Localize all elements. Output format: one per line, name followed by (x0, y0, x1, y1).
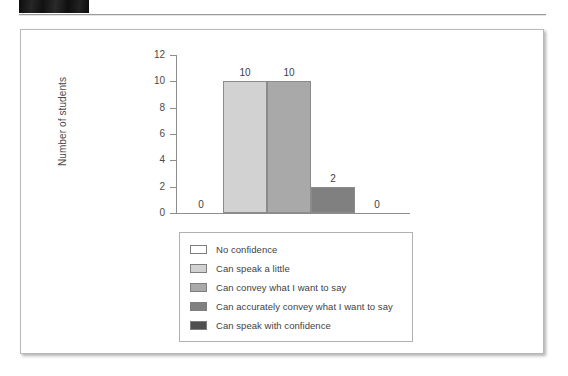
legend-item-3: Can accurately convey what I want to say (190, 297, 412, 316)
y-tick-4 (170, 160, 176, 161)
y-tick-6 (170, 134, 176, 135)
y-tick-0 (170, 213, 176, 214)
legend-item-1: Can speak a little (190, 259, 412, 278)
y-tick-label-0: 0 (131, 207, 165, 218)
bars-layer: 0101020 (177, 55, 410, 213)
legend-swatch-4 (190, 321, 207, 330)
bar-3 (311, 187, 355, 213)
y-tick-label-8: 8 (131, 102, 165, 113)
legend-label-0: No confidence (216, 244, 277, 255)
y-tick-12 (170, 55, 176, 56)
legend-item-4: Can speak with confidence (190, 316, 412, 335)
legend-swatch-3 (190, 302, 207, 311)
legend-swatch-1 (190, 264, 207, 273)
y-tick-label-4: 4 (131, 154, 165, 165)
y-tick-label-6: 6 (131, 128, 165, 139)
legend-swatch-0 (190, 245, 207, 254)
y-tick-label-12: 12 (131, 49, 165, 60)
y-tick-label-2: 2 (131, 181, 165, 192)
legend-swatch-2 (190, 283, 207, 292)
page-header (0, 0, 568, 20)
chart-legend: No confidenceCan speak a littleCan conve… (179, 232, 413, 342)
figure-frame: Number of students 024681012 0101020 No … (20, 29, 544, 354)
bar-value-label-2: 10 (269, 67, 309, 78)
y-tick-8 (170, 108, 176, 109)
y-tick-2 (170, 187, 176, 188)
legend-label-2: Can convey what I want to say (216, 282, 346, 293)
bar-value-label-0: 0 (181, 199, 221, 210)
legend-item-2: Can convey what I want to say (190, 278, 412, 297)
bar-2 (267, 81, 311, 213)
bar-value-label-4: 0 (357, 199, 397, 210)
header-divider (19, 14, 546, 15)
legend-label-3: Can accurately convey what I want to say (216, 301, 393, 312)
y-tick-10 (170, 81, 176, 82)
bar-value-label-3: 2 (313, 173, 353, 184)
bar-value-label-1: 10 (225, 67, 265, 78)
redaction-bar (19, 0, 89, 13)
y-tick-label-10: 10 (131, 75, 165, 86)
y-axis-title: Number of students (57, 42, 68, 202)
bar-1 (223, 81, 267, 213)
legend-label-4: Can speak with confidence (216, 320, 331, 331)
x-axis-line (176, 213, 410, 214)
legend-item-0: No confidence (190, 240, 412, 259)
legend-label-1: Can speak a little (216, 263, 290, 274)
